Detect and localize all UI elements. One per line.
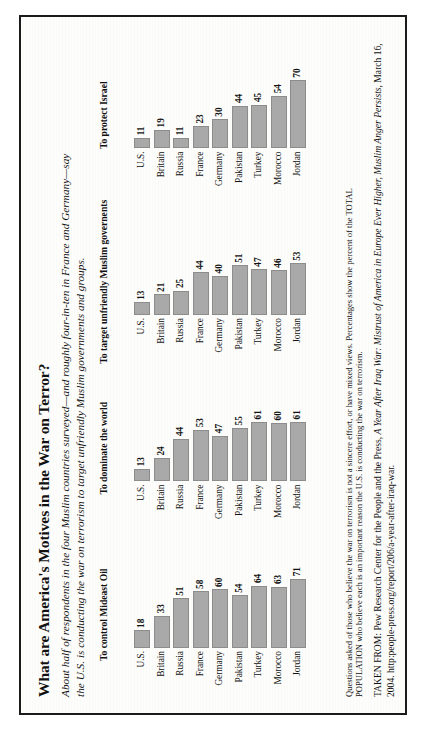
bar-track: 60 <box>270 370 286 482</box>
category-label: Russia <box>176 149 185 198</box>
bar <box>212 276 228 315</box>
bar-value-label: 51 <box>176 587 185 599</box>
bar <box>153 616 169 648</box>
bar-track: 51 <box>231 204 247 316</box>
bar-track: 24 <box>153 370 169 482</box>
bar-track: 47 <box>251 204 267 316</box>
bar-chart-4: To protect IsraelU.S.11Britain19Russia11… <box>99 33 307 198</box>
category-label: Morocco <box>273 315 282 364</box>
bar-value-label: 13 <box>137 457 146 469</box>
bar-row: U.S.18 <box>133 537 151 698</box>
bar-track: 51 <box>173 537 189 649</box>
bar <box>212 590 228 649</box>
category-label: Britain <box>156 648 165 697</box>
bar-row: Morocco54 <box>269 37 287 198</box>
chart-footnote: Questions asked of those who believe the… <box>343 33 364 697</box>
category-label: U.S. <box>137 648 146 697</box>
bar-value-label: 63 <box>273 575 282 587</box>
bar-value-label: 30 <box>215 107 224 119</box>
bar-row: Pakistan44 <box>230 37 248 198</box>
bar-row: U.S.13 <box>133 204 151 365</box>
bar-track: 61 <box>290 370 306 482</box>
bar-track: 11 <box>173 37 189 149</box>
category-label: Turkey <box>254 482 263 531</box>
bar <box>270 423 286 482</box>
bar-track: 55 <box>231 370 247 482</box>
bar-value-label: 44 <box>195 260 204 272</box>
category-label: Germany <box>215 149 224 198</box>
category-label: Jordan <box>293 648 302 697</box>
bar <box>173 291 189 315</box>
bar <box>290 422 306 482</box>
bar-track: 53 <box>290 204 306 316</box>
bar <box>270 270 286 315</box>
bar-row: Jordan61 <box>289 370 307 531</box>
bar-row: Britain24 <box>152 370 170 531</box>
bar-value-label: 44 <box>176 427 185 439</box>
bar-track: 19 <box>153 37 169 149</box>
bar-value-label: 45 <box>254 93 263 105</box>
bar-track: 64 <box>251 537 267 649</box>
bar <box>251 269 267 315</box>
bar-value-label: 33 <box>156 604 165 616</box>
bar <box>134 630 150 648</box>
bar-track: 21 <box>153 204 169 316</box>
bar <box>290 80 306 148</box>
category-label: U.S. <box>137 482 146 531</box>
chart-title: To protect Israel <box>99 81 129 149</box>
category-label: Britain <box>156 315 165 364</box>
bar-track: 54 <box>231 537 247 649</box>
category-label: Germany <box>215 315 224 364</box>
bar-row: Germany47 <box>211 370 229 531</box>
bar-value-label: 11 <box>176 127 185 138</box>
bar-value-label: 19 <box>156 118 165 130</box>
bar-value-label: 46 <box>273 258 282 270</box>
category-label: Turkey <box>254 149 263 198</box>
category-label: Pakistan <box>234 149 243 198</box>
bar <box>231 265 247 315</box>
chart-group-container: To control Mideast OilU.S.18Britain33Rus… <box>97 33 338 697</box>
bar-track: 70 <box>290 37 306 149</box>
bar-row: Jordan53 <box>289 204 307 365</box>
category-label: France <box>195 149 204 198</box>
bar-track: 46 <box>270 204 286 316</box>
bar-track: 44 <box>231 37 247 149</box>
bar-track: 30 <box>212 37 228 149</box>
bar <box>231 595 247 648</box>
bar-track: 60 <box>212 537 228 649</box>
bar <box>212 436 228 482</box>
bar-value-label: 11 <box>137 127 146 138</box>
category-label: France <box>195 482 204 531</box>
bar-row: Russia51 <box>172 537 190 698</box>
bar-value-label: 60 <box>273 411 282 423</box>
bar-row: Turkey47 <box>250 204 268 365</box>
category-label: U.S. <box>137 315 146 364</box>
bar-value-label: 47 <box>215 424 224 436</box>
category-label: Russia <box>176 315 185 364</box>
bar-value-label: 44 <box>234 94 243 106</box>
bar <box>231 428 247 482</box>
bar-value-label: 21 <box>156 283 165 295</box>
bar <box>134 469 150 482</box>
bar-value-label: 61 <box>293 410 302 422</box>
bar <box>290 579 306 648</box>
page-subtitle: About half of respondents in the four Mu… <box>58 37 88 697</box>
category-label: Turkey <box>254 315 263 364</box>
bar-row: Morocco60 <box>269 370 287 531</box>
bar-row: Pakistan51 <box>230 204 248 365</box>
bar-chart-3: To target unfriendly Muslim governentsU.… <box>99 200 307 365</box>
bar-value-label: 71 <box>293 567 302 579</box>
category-label: Morocco <box>273 149 282 198</box>
bar-track: 23 <box>192 37 208 149</box>
category-label: Morocco <box>273 482 282 531</box>
bar-row: Britain33 <box>152 537 170 698</box>
bar-row: Britain21 <box>152 204 170 365</box>
bar-value-label: 40 <box>215 264 224 276</box>
bar-row: Pakistan54 <box>230 537 248 698</box>
category-label: Britain <box>156 482 165 531</box>
subtitle-line-2: the U.S. is conducting the war on terror… <box>73 37 88 697</box>
bar <box>192 272 208 315</box>
bar <box>173 598 189 648</box>
bar-row: Turkey61 <box>250 370 268 531</box>
category-label: Britain <box>156 149 165 198</box>
